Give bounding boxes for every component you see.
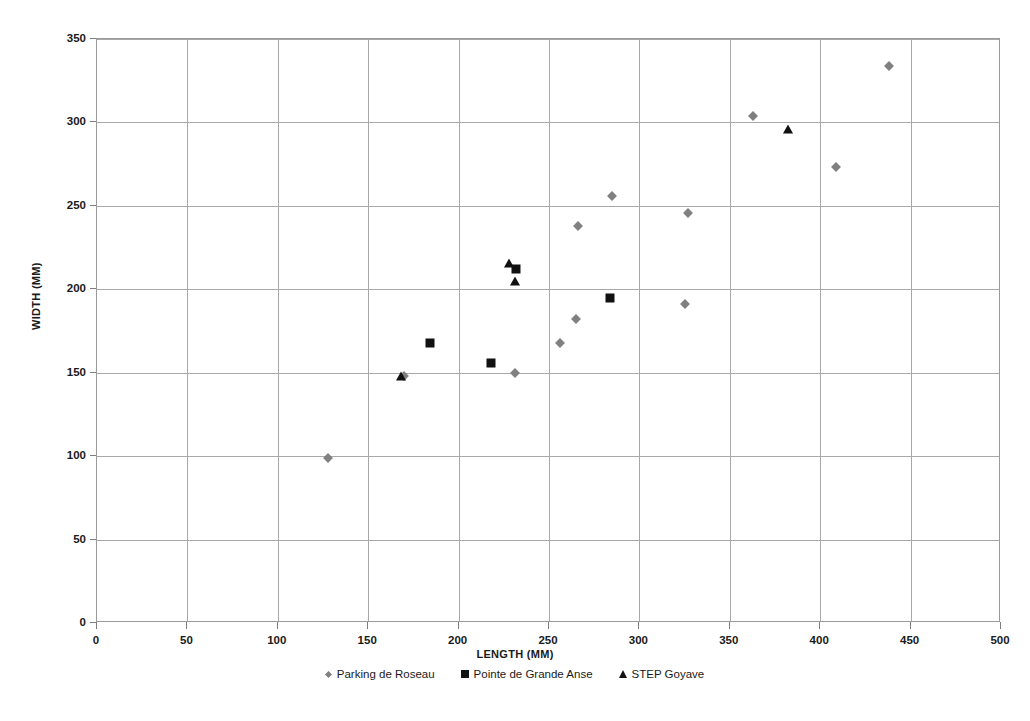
data-point <box>683 208 693 218</box>
y-tick-label: 350 <box>26 32 86 44</box>
y-tick-label: 300 <box>26 115 86 127</box>
gridline-vertical <box>639 39 640 621</box>
x-tick-label: 300 <box>608 634 668 646</box>
x-tick-label: 100 <box>247 634 307 646</box>
y-tick-label: 0 <box>26 616 86 628</box>
data-point <box>555 338 565 348</box>
y-tick-label: 100 <box>26 449 86 461</box>
x-tick-label: 450 <box>880 634 940 646</box>
data-point <box>487 358 496 367</box>
legend-item-label: STEP Goyave <box>632 668 705 680</box>
data-point <box>571 314 581 324</box>
data-point <box>510 276 520 285</box>
data-point <box>323 453 333 463</box>
data-point <box>425 338 434 347</box>
legend-item[interactable]: STEP Goyave <box>619 668 705 680</box>
gridline-vertical <box>459 39 460 621</box>
legend-item[interactable]: Parking de Roseau <box>326 668 435 680</box>
y-tick-mark <box>90 455 96 456</box>
gridline-horizontal <box>97 289 999 290</box>
data-point <box>396 372 406 381</box>
legend: Parking de RoseauPointe de Grande AnseST… <box>0 668 1030 680</box>
data-point <box>832 163 842 173</box>
y-tick-mark <box>90 539 96 540</box>
gridline-horizontal <box>97 456 999 457</box>
x-tick-mark <box>638 622 639 629</box>
x-tick-label: 50 <box>156 634 216 646</box>
legend-item-label: Pointe de Grande Anse <box>474 668 593 680</box>
data-point <box>606 293 615 302</box>
x-tick-label: 400 <box>789 634 849 646</box>
x-tick-label: 250 <box>518 634 578 646</box>
x-tick-mark <box>819 622 820 629</box>
gridline-vertical <box>368 39 369 621</box>
plot-area <box>96 38 1000 622</box>
y-tick-mark <box>90 121 96 122</box>
gridline-horizontal <box>97 122 999 123</box>
data-point <box>607 191 617 201</box>
legend-item[interactable]: Pointe de Grande Anse <box>461 668 593 680</box>
gridline-horizontal <box>97 206 999 207</box>
x-tick-label: 0 <box>66 634 126 646</box>
x-tick-label: 500 <box>970 634 1030 646</box>
data-point <box>783 125 793 134</box>
data-point <box>884 61 894 71</box>
data-point <box>510 368 520 378</box>
x-axis-label: LENGTH (MM) <box>0 648 1030 660</box>
y-tick-label: 250 <box>26 199 86 211</box>
gridline-horizontal <box>97 373 999 374</box>
data-point <box>573 221 583 231</box>
triangle-marker-icon <box>619 670 627 678</box>
gridline-vertical <box>187 39 188 621</box>
x-tick-mark <box>367 622 368 629</box>
x-tick-mark <box>458 622 459 629</box>
x-tick-label: 200 <box>428 634 488 646</box>
gridline-vertical <box>549 39 550 621</box>
y-axis-label: WIDTH (MM) <box>30 262 42 330</box>
y-tick-mark <box>90 38 96 39</box>
square-marker-icon <box>461 670 469 678</box>
data-point <box>504 258 514 267</box>
gridline-vertical <box>820 39 821 621</box>
data-point <box>680 299 690 309</box>
y-tick-label: 50 <box>26 533 86 545</box>
y-tick-mark <box>90 205 96 206</box>
gridline-horizontal <box>97 39 999 40</box>
gridline-horizontal <box>97 540 999 541</box>
x-tick-label: 150 <box>337 634 397 646</box>
y-tick-label: 150 <box>26 366 86 378</box>
x-tick-mark <box>1000 622 1001 629</box>
x-tick-mark <box>186 622 187 629</box>
scatter-chart: 050100150200250300350 050100150200250300… <box>0 0 1030 721</box>
data-point <box>748 111 758 121</box>
y-tick-mark <box>90 288 96 289</box>
x-tick-mark <box>96 622 97 629</box>
x-tick-mark <box>548 622 549 629</box>
y-tick-mark <box>90 372 96 373</box>
x-tick-mark <box>729 622 730 629</box>
gridline-vertical <box>911 39 912 621</box>
x-tick-mark <box>277 622 278 629</box>
x-tick-mark <box>910 622 911 629</box>
x-tick-label: 350 <box>699 634 759 646</box>
gridline-vertical <box>730 39 731 621</box>
legend-item-label: Parking de Roseau <box>337 668 435 680</box>
diamond-marker-icon <box>325 670 332 677</box>
gridline-vertical <box>278 39 279 621</box>
